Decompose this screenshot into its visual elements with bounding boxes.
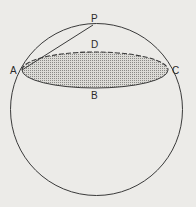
- label-b: B: [91, 90, 98, 101]
- label-a: A: [10, 65, 17, 76]
- sphere-diagram: P D A C B: [0, 0, 196, 207]
- label-d: D: [91, 39, 98, 50]
- cross-section-back-shade: [22, 52, 168, 70]
- label-p: P: [91, 13, 98, 24]
- cross-section-front: [22, 70, 168, 88]
- label-c: C: [172, 65, 179, 76]
